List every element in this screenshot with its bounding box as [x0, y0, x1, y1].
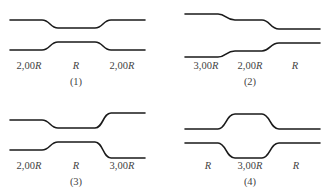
panel-3-bottom-wall: [10, 142, 145, 158]
panel-1-label-middle: R: [73, 61, 79, 72]
panel-1-bottom-wall: [10, 42, 145, 50]
panel-2-label-middle: 2,00R: [238, 61, 263, 72]
panel-2-label-right: R: [292, 61, 298, 72]
panel-4-bottom-wall: [185, 143, 320, 158]
panel-4-top-wall: [185, 114, 320, 129]
panel-4-caption: (4): [244, 177, 256, 188]
panel-1-label-left: 2,00R: [17, 61, 42, 72]
panel-2-bottom-wall: [185, 43, 320, 57]
pipe-diagrams: [0, 0, 327, 195]
panel-2-label-left: 3,00R: [194, 61, 219, 72]
panel-1-top-wall: [10, 20, 145, 28]
panel-3-label-right: 3,00R: [110, 161, 135, 172]
panel-1-caption: (1): [70, 77, 82, 88]
panel-4-label-left: R: [205, 161, 211, 172]
panel-4-label-right: R: [293, 161, 299, 172]
panel-2-top-wall: [185, 14, 320, 29]
panel-3-top-wall: [10, 113, 145, 128]
panel-2-caption: (2): [244, 77, 256, 88]
panel-4-label-middle: 3,00R: [238, 161, 263, 172]
panel-3-label-middle: R: [73, 161, 79, 172]
panel-3-label-left: 2,00R: [17, 161, 42, 172]
panel-3-caption: (3): [70, 177, 82, 188]
panel-1-label-right: 2,00R: [110, 61, 135, 72]
